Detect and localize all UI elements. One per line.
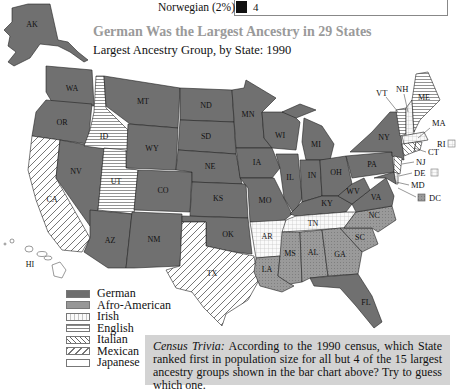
svg-text:TN: TN [308, 219, 319, 228]
svg-text:NY: NY [378, 133, 390, 142]
svg-text:MN: MN [242, 110, 255, 119]
svg-text:CT: CT [428, 147, 440, 157]
italian-swatch [66, 336, 90, 344]
svg-text:WY: WY [145, 144, 159, 153]
svg-text:ND: ND [200, 101, 212, 110]
state-FL [310, 274, 382, 328]
state-IN [300, 160, 322, 202]
japanese-swatch [66, 359, 90, 367]
svg-text:AR: AR [261, 232, 273, 241]
state-NY [350, 112, 404, 160]
svg-text:WI: WI [275, 131, 286, 140]
svg-text:PA: PA [367, 160, 377, 169]
svg-text:SC: SC [355, 233, 365, 242]
state-MS [278, 232, 302, 284]
svg-text:TX: TX [207, 269, 218, 278]
svg-text:OK: OK [222, 230, 234, 239]
svg-text:NV: NV [70, 167, 82, 176]
svg-text:MI: MI [311, 140, 321, 149]
svg-text:NE: NE [205, 162, 216, 171]
afro-american-swatch [66, 301, 90, 309]
svg-text:WA: WA [66, 84, 79, 93]
svg-text:AL: AL [308, 248, 319, 257]
svg-text:MT: MT [137, 97, 149, 106]
ri-swatch [448, 140, 455, 147]
irish-swatch [66, 313, 90, 321]
svg-text:MA: MA [432, 118, 447, 128]
state-AK [4, 4, 88, 66]
english-swatch [66, 324, 90, 332]
svg-text:SD: SD [201, 132, 211, 141]
svg-text:AK: AK [26, 20, 38, 29]
svg-text:OR: OR [56, 118, 68, 127]
svg-text:DC: DC [429, 193, 441, 203]
svg-text:NJ: NJ [416, 157, 426, 167]
svg-text:OH: OH [330, 168, 342, 177]
svg-text:IL: IL [286, 173, 294, 182]
svg-text:GA: GA [334, 250, 346, 259]
state-HI [4, 239, 66, 278]
svg-text:NM: NM [148, 235, 161, 244]
svg-text:AZ: AZ [105, 236, 116, 245]
state-NJ [394, 156, 402, 174]
state-DC [418, 194, 425, 201]
svg-text:IN: IN [308, 171, 317, 180]
de-swatch [431, 169, 438, 176]
svg-text:ME: ME [418, 93, 430, 102]
svg-text:IA: IA [253, 158, 262, 167]
mexican-swatch [66, 347, 90, 355]
svg-text:NH: NH [396, 84, 408, 94]
state-CT [402, 142, 416, 156]
svg-text:VA: VA [371, 193, 382, 202]
svg-text:MS: MS [284, 249, 296, 258]
svg-text:NC: NC [368, 211, 379, 220]
svg-text:KY: KY [321, 199, 333, 208]
svg-text:MD: MD [411, 180, 425, 190]
svg-text:VT: VT [376, 88, 388, 98]
svg-text:MO: MO [259, 196, 272, 205]
svg-text:DE: DE [414, 168, 425, 178]
svg-text:HI: HI [26, 260, 35, 269]
svg-text:WV: WV [346, 187, 360, 196]
svg-text:CO: CO [157, 186, 168, 195]
svg-text:FL: FL [361, 298, 370, 307]
census-trivia-box: Census Trivia: According to the 1990 cen… [145, 335, 450, 385]
svg-text:ID: ID [100, 132, 109, 141]
svg-text:KS: KS [213, 194, 223, 203]
svg-text:CA: CA [46, 195, 57, 204]
trivia-lead: Census Trivia: [153, 339, 225, 353]
german-swatch [66, 290, 90, 298]
svg-text:UT: UT [111, 177, 122, 186]
svg-text:LA: LA [262, 265, 273, 274]
